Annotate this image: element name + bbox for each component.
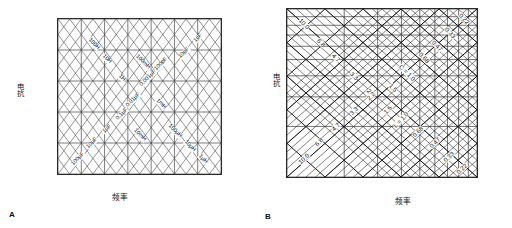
panel-b-y-axis-title: 电抗 xyxy=(272,72,279,86)
panel-b-plot-area: 10.06.84.73.32.21.5C = 1.00.680.470.330.… xyxy=(286,8,478,178)
panel-b-label: B xyxy=(265,212,271,221)
panel-a-y-axis-title: 电抗 xyxy=(16,82,23,96)
panel-b: 10.06.84.73.32.21.5C = 1.00.680.470.330.… xyxy=(256,0,512,228)
panel-a-label: A xyxy=(9,210,15,219)
panel-a-x-axis-title: 频率 xyxy=(112,191,129,202)
figure-root: 电抗 频率 100H10H1H100mH10mH1mH100µH10µH1µH1… xyxy=(0,0,512,228)
panel-a-plot-area: 100H10H1H100mH10mH1mH100µH10µH1µH100µF10… xyxy=(57,18,222,175)
panel-a: 电抗 频率 100H10H1H100mH10mH1mH100µH10µH1µH1… xyxy=(0,0,256,228)
panel-b-x-axis-title: 频率 xyxy=(395,195,412,206)
